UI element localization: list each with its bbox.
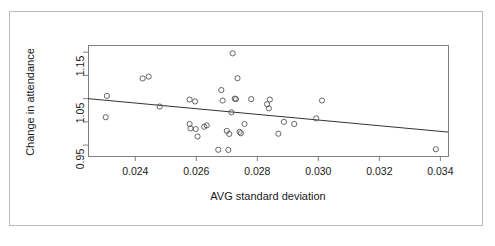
data-point	[146, 74, 151, 79]
data-point	[226, 147, 231, 152]
data-point	[103, 115, 108, 120]
data-point	[157, 104, 162, 109]
data-point	[104, 93, 109, 98]
x-tick-label: 0.032	[357, 165, 401, 177]
data-point	[276, 131, 281, 136]
x-tick-label: 0.034	[418, 165, 462, 177]
plot-frame-rect	[89, 46, 449, 157]
data-point	[219, 87, 224, 92]
x-tick-label: 0.028	[235, 165, 279, 177]
y-tick-label: 1.15	[74, 51, 86, 81]
y-tick-label: 1.05	[74, 98, 86, 128]
data-point	[216, 147, 221, 152]
data-point	[238, 131, 243, 136]
data-point	[242, 121, 247, 126]
x-axis-title: AVG standard deviation	[88, 190, 448, 202]
data-point	[187, 97, 192, 102]
x-tick-label: 0.026	[174, 165, 218, 177]
data-point	[192, 99, 197, 104]
plot-frame	[89, 46, 449, 157]
data-point	[195, 134, 200, 139]
chart-figure: Change in attendance AVG standard deviat…	[0, 0, 495, 246]
data-point	[319, 98, 324, 103]
axis-ticks	[83, 52, 440, 161]
data-point	[237, 129, 242, 134]
data-point	[193, 126, 198, 131]
data-point	[267, 97, 272, 102]
data-points	[103, 51, 438, 153]
data-point	[220, 98, 225, 103]
data-point	[281, 119, 286, 124]
data-point	[230, 51, 235, 56]
regression-line	[88, 99, 448, 132]
x-tick-label: 0.024	[113, 165, 157, 177]
y-axis-title: Change in attendance	[24, 42, 36, 162]
data-point	[433, 147, 438, 152]
data-point	[292, 121, 297, 126]
data-point	[235, 76, 240, 81]
data-point	[249, 97, 254, 102]
data-point	[140, 76, 145, 81]
y-tick-label: 0.95	[74, 144, 86, 174]
fit-line	[88, 99, 448, 132]
x-tick-label: 0.030	[296, 165, 340, 177]
